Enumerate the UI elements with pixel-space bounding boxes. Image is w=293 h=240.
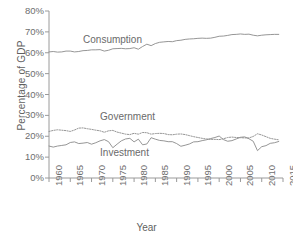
series-label-investment: Investment	[100, 147, 149, 158]
series-line-government	[49, 128, 279, 140]
series-line-investment	[49, 136, 279, 151]
gdp-components-line-chart: Percentage of GDP Year 0%10%20%30%40%50%…	[0, 0, 293, 240]
series-label-consumption: Consumption	[83, 34, 142, 45]
series-label-government: Government	[100, 111, 155, 122]
